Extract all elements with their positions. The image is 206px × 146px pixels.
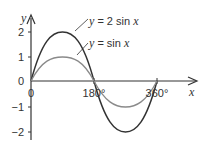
y-tick-1: 1 (18, 51, 24, 63)
y-tick-2: 2 (18, 26, 24, 38)
label-2sinx: y = 2 sin x (88, 14, 139, 28)
leader-2sinx (75, 19, 88, 31)
y-tick-0: 0 (18, 75, 24, 87)
x-tick-0: 0 (28, 87, 34, 99)
y-tick-neg1: −1 (11, 101, 24, 113)
curve-sinx (31, 57, 157, 107)
y-axis-label: y (20, 11, 27, 25)
x-tick-180: 180° (83, 87, 106, 99)
sine-graph: 2 1 0 −1 −2 0 180° 360° y x y = 2 sin x … (0, 0, 206, 146)
x-tick-360: 360° (146, 87, 169, 99)
leader-sinx (77, 43, 88, 55)
y-tick-neg2: −2 (11, 126, 24, 138)
x-axis-label: x (188, 85, 195, 99)
label-sinx: y = sin x (88, 36, 130, 50)
